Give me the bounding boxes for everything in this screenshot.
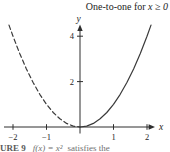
svg-text:y: y xyxy=(75,14,81,24)
svg-text:x: x xyxy=(158,122,164,132)
svg-text:2: 2 xyxy=(70,77,74,87)
figure-caption-math: f(x) = x² xyxy=(33,143,63,152)
svg-text:−2: −2 xyxy=(8,132,17,142)
figure-caption: URE 9f(x) = x²satisfies the xyxy=(0,143,170,152)
svg-text:4: 4 xyxy=(70,31,75,41)
parabola-plot: xy−2−11224 xyxy=(0,0,170,152)
figure-caption-label: URE 9 xyxy=(0,143,26,152)
figure-caption-text: satisfies the xyxy=(68,143,110,152)
svg-text:−1: −1 xyxy=(42,132,51,142)
svg-text:2: 2 xyxy=(145,132,149,142)
parabola-figure: One-to-one for x ≥ 0 xy−2−11224 URE 9f(x… xyxy=(0,0,170,152)
svg-text:1: 1 xyxy=(111,132,115,142)
